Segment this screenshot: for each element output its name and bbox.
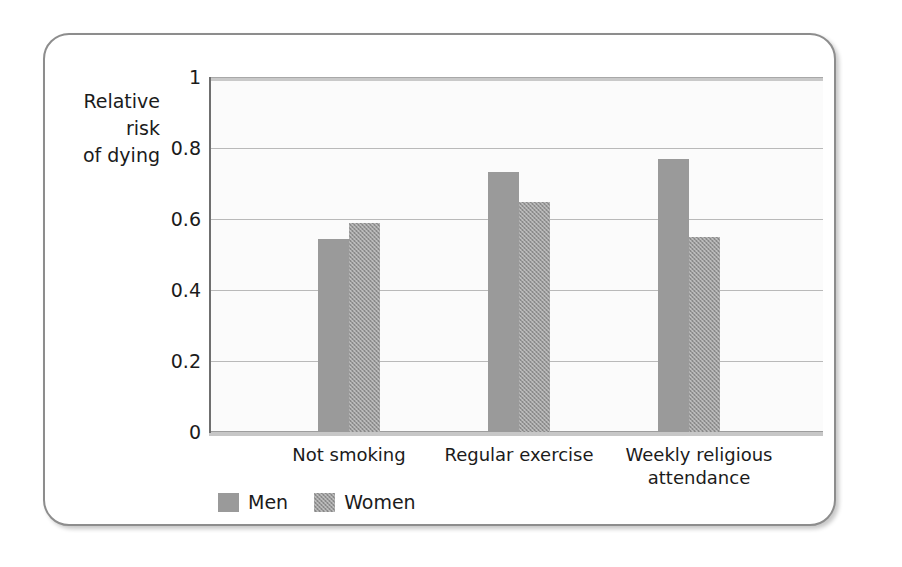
category-label-line-1: Weekly religious xyxy=(609,443,789,466)
bar-men-regular-exercise xyxy=(488,172,519,432)
legend-item-women: Women xyxy=(314,491,416,513)
category-label-line-2: attendance xyxy=(609,466,789,489)
y-tick-label-0.8: 0.8 xyxy=(141,139,201,158)
bar-women-weekly-religious-attendance xyxy=(689,237,720,432)
legend-label-women: Women xyxy=(344,491,416,513)
gridline-0.8 xyxy=(209,148,823,149)
bar-women-regular-exercise xyxy=(519,202,550,432)
y-axis-tick-labels: 1 0.8 0.6 0.4 0.2 0 xyxy=(135,0,201,567)
figure-page: Relative risk of dying 1 0.8 0.6 0.4 0.2… xyxy=(0,0,902,567)
category-label-not-smoking: Not smoking xyxy=(269,443,429,466)
y-tick-label-0: 0 xyxy=(141,423,201,442)
category-label-regular-exercise: Regular exercise xyxy=(430,443,608,466)
category-label-line-1: Not smoking xyxy=(269,443,429,466)
legend-label-men: Men xyxy=(248,491,288,513)
legend-swatch-women-icon xyxy=(314,493,335,512)
y-tick-label-0.4: 0.4 xyxy=(141,281,201,300)
plot-area xyxy=(209,77,823,432)
gridline-1.0 xyxy=(209,77,823,81)
legend-item-men: Men xyxy=(218,491,288,513)
category-label-weekly-religious-attendance: Weekly religious attendance xyxy=(609,443,789,489)
legend-swatch-men-icon xyxy=(218,493,239,512)
y-tick-label-0.2: 0.2 xyxy=(141,352,201,371)
y-axis-line xyxy=(209,77,211,433)
bar-men-weekly-religious-attendance xyxy=(658,159,689,432)
y-tick-label-1: 1 xyxy=(141,68,201,87)
bar-men-not-smoking xyxy=(318,239,349,432)
bar-women-not-smoking xyxy=(349,223,380,432)
category-label-line-1: Regular exercise xyxy=(430,443,608,466)
chart-legend: Men Women xyxy=(218,491,416,513)
y-tick-label-0.6: 0.6 xyxy=(141,210,201,229)
